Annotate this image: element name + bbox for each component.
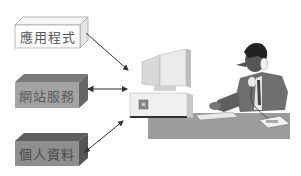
web-services-label: 網站服務 <box>15 82 79 108</box>
diagram-canvas: 應用程式 網站服務 個人資料 <box>0 0 301 176</box>
arrow-applications <box>86 33 128 70</box>
personal-data-label: 個人資料 <box>15 141 79 166</box>
applications-box: 應用程式 <box>15 25 80 48</box>
web-services-box: 網站服務 <box>15 82 79 108</box>
personal-data-box: 個人資料 <box>15 141 79 166</box>
applications-label: 應用程式 <box>15 25 80 48</box>
arrow-personal-data <box>85 121 123 152</box>
person-on-phone <box>209 43 288 120</box>
computer-base <box>130 93 193 118</box>
computer-monitor <box>142 49 191 91</box>
